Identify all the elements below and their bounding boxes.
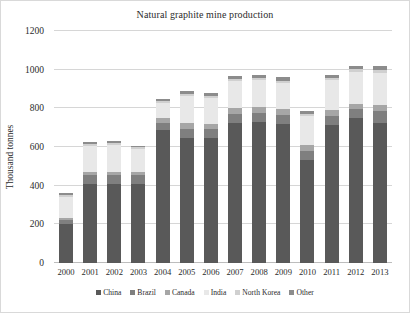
bar-segment-india[interactable] [107,145,121,172]
bar-group[interactable] [54,31,78,263]
bar-segment-brazil[interactable] [228,114,242,123]
bar-stack[interactable] [252,75,266,263]
x-tick-label: 2003 [126,265,150,281]
bar-segment-china[interactable] [300,160,314,263]
bar-segment-brazil[interactable] [83,175,97,184]
bar-segment-brazil[interactable] [349,109,363,118]
x-tick-label: 2004 [151,265,175,281]
bar-group[interactable] [126,31,150,263]
bar-segment-india[interactable] [228,81,242,108]
bar-segment-brazil[interactable] [300,151,314,160]
bar-stack[interactable] [325,75,339,263]
legend-item-canada[interactable]: Canada [165,288,195,297]
bar-segment-china[interactable] [252,122,266,263]
legend-swatch-icon [96,290,101,295]
legend-swatch-icon [235,290,240,295]
bar-group[interactable] [78,31,102,263]
bar-stack[interactable] [83,142,97,263]
bar-segment-brazil[interactable] [252,113,266,122]
y-tick-label: 200 [30,219,44,229]
chart-title: Natural graphite mine production [0,9,410,20]
bar-stack[interactable] [349,66,363,263]
bar-group[interactable] [199,31,223,263]
bar-segment-brazil[interactable] [131,175,145,184]
x-tick-label: 2008 [247,265,271,281]
y-tick-label: 1200 [25,26,44,36]
bar-segment-india[interactable] [83,146,97,172]
legend-item-north-korea[interactable]: North Korea [235,288,280,297]
bar-group[interactable] [175,31,199,263]
y-axis-tick-labels: 020040060080010001200 [0,31,50,263]
bar-segment-india[interactable] [300,116,314,145]
bar-group[interactable] [102,31,126,263]
y-tick-label: 1000 [25,65,44,75]
legend-swatch-icon [204,290,209,295]
x-tick-label: 2010 [295,265,319,281]
bar-segment-china[interactable] [59,224,73,263]
x-tick-label: 2013 [368,265,392,281]
bar-stack[interactable] [204,93,218,263]
x-tick-label: 2002 [102,265,126,281]
bar-segment-india[interactable] [156,103,170,118]
bar-segment-brazil[interactable] [107,175,121,184]
bar-segment-india[interactable] [373,73,387,106]
bar-segment-india[interactable] [59,197,73,217]
x-tick-label: 2012 [344,265,368,281]
bar-group[interactable] [344,31,368,263]
legend-item-china[interactable]: China [96,288,121,297]
bar-segment-china[interactable] [276,124,290,263]
legend-item-brazil[interactable]: Brazil [130,288,156,297]
bar-segment-india[interactable] [204,98,218,124]
bar-stack[interactable] [228,76,242,263]
bar-segment-brazil[interactable] [204,129,218,139]
bar-segment-china[interactable] [228,123,242,263]
bar-segment-china[interactable] [204,138,218,263]
bar-segment-india[interactable] [180,96,194,123]
bar-segment-india[interactable] [252,80,266,107]
x-tick-label: 2005 [175,265,199,281]
bar-segment-china[interactable] [180,138,194,263]
y-tick-label: 800 [30,103,44,113]
x-tick-label: 2007 [223,265,247,281]
bar-group[interactable] [271,31,295,263]
bar-segment-brazil[interactable] [156,123,170,130]
bar-stack[interactable] [180,91,194,263]
bar-segment-india[interactable] [131,149,145,172]
bar-group[interactable] [368,31,392,263]
legend-item-india[interactable]: India [204,288,227,297]
y-tick-label: 400 [30,181,44,191]
bar-segment-china[interactable] [156,130,170,263]
legend-label: China [103,288,121,297]
bar-segment-brazil[interactable] [276,115,290,124]
bar-segment-india[interactable] [276,83,290,109]
bar-stack[interactable] [300,111,314,263]
bar-stack[interactable] [59,193,73,263]
bar-segment-china[interactable] [107,184,121,263]
legend-label: India [211,288,227,297]
bar-stack[interactable] [276,77,290,263]
bar-stack[interactable] [156,99,170,263]
bar-segment-china[interactable] [349,118,363,263]
bar-segment-india[interactable] [325,80,339,110]
bar-group[interactable] [320,31,344,263]
bar-segment-china[interactable] [325,125,339,263]
legend-label: Other [296,288,313,297]
x-tick-label: 2011 [320,265,344,281]
bar-group[interactable] [247,31,271,263]
bar-segment-china[interactable] [373,123,387,263]
bar-segment-brazil[interactable] [325,116,339,125]
bar-segment-china[interactable] [131,184,145,263]
bar-segment-china[interactable] [83,184,97,263]
bar-segment-brazil[interactable] [180,129,194,139]
bar-stack[interactable] [131,146,145,263]
bar-stack[interactable] [373,66,387,263]
bar-group[interactable] [223,31,247,263]
bar-stack[interactable] [107,141,121,263]
bar-group[interactable] [295,31,319,263]
bar-segment-india[interactable] [349,72,363,104]
legend-item-other[interactable]: Other [289,288,313,297]
y-tick-label: 0 [39,258,44,268]
bar-segment-brazil[interactable] [373,111,387,123]
bar-group[interactable] [151,31,175,263]
legend-swatch-icon [289,290,294,295]
